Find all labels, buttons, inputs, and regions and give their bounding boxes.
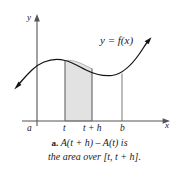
curve-equation-label: y = f(x) (100, 35, 133, 46)
figure-caption: a. A(t + h) – A(t) is the area over [t, … (0, 136, 179, 163)
tick-label-t-plus-h: t + h (83, 124, 102, 134)
tick-label-b: b (120, 124, 125, 134)
tick-label-a: a (27, 124, 32, 134)
shaded-area-region (65, 60, 92, 121)
caption-line-2-text: the area over [t, t + h]. (0, 150, 179, 163)
x-axis-label: x (165, 121, 169, 130)
y-axis-label: y (27, 13, 31, 22)
caption-line-1: a. A(t + h) – A(t) is (0, 136, 179, 150)
tick-label-t: t (63, 124, 66, 134)
y-axis-arrowhead (34, 14, 40, 22)
caption-marker: a. (51, 138, 58, 148)
figure-container: y x a t t + h b y = f(x) a. A(t + h) – A… (0, 0, 179, 173)
curve-right-arrowhead (145, 37, 152, 44)
caption-line-1-text: A(t + h) – A(t) is (61, 137, 128, 148)
